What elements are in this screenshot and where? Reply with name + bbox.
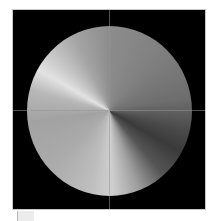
canvas-frame <box>12 9 206 210</box>
crosshair-vertical <box>109 10 110 209</box>
preview-stage <box>0 0 215 221</box>
scrollbar-stub[interactable] <box>17 211 34 221</box>
